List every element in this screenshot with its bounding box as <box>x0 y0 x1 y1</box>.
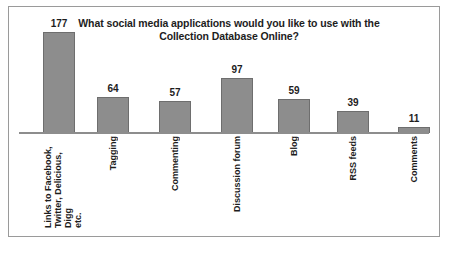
category-label-5: Blog <box>289 136 299 156</box>
category-labels-layer: Links to Facebook, Twitter, Delicious, D… <box>19 136 431 236</box>
bar-value-label: 57 <box>169 87 180 98</box>
x-axis-line <box>19 132 429 134</box>
plot-area: 177645797593911 <box>19 25 431 133</box>
figure-frame: What social media applications would you… <box>8 6 440 237</box>
bars-layer: 177645797593911 <box>19 25 431 133</box>
bar-value-label: 64 <box>107 83 118 94</box>
bar-value-label: 177 <box>51 18 68 29</box>
bar-value-label: 39 <box>347 97 358 108</box>
bar-value-label: 59 <box>288 85 299 96</box>
bar-rect <box>337 111 369 133</box>
bar-7: 11 <box>398 25 430 133</box>
bar-6: 39 <box>337 25 369 133</box>
category-label-3: Commenting <box>170 136 180 191</box>
bar-4: 97 <box>221 25 253 133</box>
bar-2: 64 <box>97 25 129 133</box>
bar-rect <box>221 78 253 133</box>
bar-rect <box>97 97 129 133</box>
bar-value-label: 11 <box>409 113 420 124</box>
bar-1: 177 <box>43 25 75 133</box>
category-label-6: RSS feeds <box>348 136 358 181</box>
bar-3: 57 <box>159 25 191 133</box>
screenshot-root: What social media applications would you… <box>0 0 450 257</box>
category-label-1: Links to Facebook, Twitter, Delicious, D… <box>43 136 75 228</box>
bar-value-label: 97 <box>231 64 242 75</box>
bar-rect <box>159 101 191 133</box>
bar-5: 59 <box>278 25 310 133</box>
category-label-7: Comments <box>409 136 419 183</box>
category-label-4: Discussion forum <box>232 136 242 212</box>
bar-rect <box>278 99 310 133</box>
bar-rect <box>43 32 75 133</box>
category-label-2: Tagging <box>108 136 118 170</box>
